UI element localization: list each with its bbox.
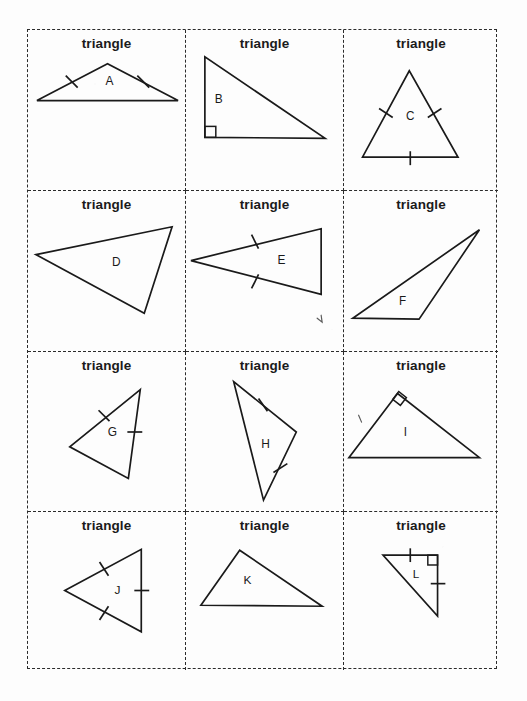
triangle-drawing-h: H bbox=[186, 352, 343, 511]
triangle-card-g[interactable]: triangleG bbox=[28, 352, 186, 512]
triangle-drawing-e: E bbox=[186, 191, 343, 351]
congruence-tick-mark bbox=[252, 235, 259, 249]
triangle-letter-label: G bbox=[108, 425, 117, 439]
triangle-card-d[interactable]: triangleD bbox=[28, 191, 186, 352]
triangle-drawing-f: F bbox=[344, 191, 498, 351]
triangle-letter-label: L bbox=[413, 567, 420, 580]
triangle-letter-label: H bbox=[261, 437, 270, 451]
triangle-letter-label: C bbox=[406, 109, 415, 123]
triangle-drawing-c: C bbox=[344, 30, 498, 190]
triangle-outline bbox=[191, 229, 321, 295]
triangle-letter-label: J bbox=[114, 583, 120, 597]
triangle-outline bbox=[349, 393, 480, 457]
triangle-card-e[interactable]: triangleE bbox=[186, 191, 344, 352]
congruence-tick-mark bbox=[379, 109, 393, 118]
triangle-outline bbox=[65, 549, 142, 631]
stray-pencil-mark bbox=[359, 415, 362, 422]
congruence-tick-mark bbox=[259, 398, 268, 411]
congruence-tick-mark bbox=[100, 562, 109, 576]
triangle-letter-label: I bbox=[404, 425, 407, 438]
worksheet-page: triangleAtriangleBtriangleCtriangleDtria… bbox=[0, 0, 527, 701]
stray-pencil-mark bbox=[317, 315, 322, 322]
triangle-outline bbox=[36, 227, 172, 313]
triangle-card-i[interactable]: triangleI bbox=[344, 352, 498, 512]
triangle-card-b[interactable]: triangleB bbox=[186, 30, 344, 191]
triangle-letter-label: K bbox=[244, 573, 252, 587]
triangle-card-grid: triangleAtriangleBtriangleCtriangleDtria… bbox=[27, 29, 497, 669]
congruence-tick-mark bbox=[66, 76, 78, 88]
triangle-outline bbox=[70, 390, 141, 479]
triangle-drawing-k: K bbox=[186, 512, 343, 670]
triangle-outline bbox=[205, 57, 325, 138]
triangle-letter-label: F bbox=[399, 294, 406, 308]
triangle-letter-label: E bbox=[277, 253, 285, 267]
triangle-drawing-g: G bbox=[28, 352, 185, 511]
triangle-outline bbox=[201, 550, 322, 606]
triangle-card-h[interactable]: triangleH bbox=[186, 352, 344, 512]
triangle-outline bbox=[353, 230, 480, 319]
congruence-tick-mark bbox=[137, 76, 149, 88]
triangle-drawing-a: A bbox=[28, 30, 185, 190]
right-angle-marker-icon bbox=[428, 555, 438, 565]
triangle-card-j[interactable]: triangleJ bbox=[28, 512, 186, 670]
right-angle-marker-icon bbox=[205, 126, 216, 137]
triangle-letter-label: D bbox=[112, 255, 121, 269]
triangle-drawing-l: L bbox=[344, 512, 498, 670]
triangle-drawing-b: B bbox=[186, 30, 343, 190]
triangle-card-f[interactable]: triangleF bbox=[344, 191, 498, 352]
triangle-letter-label: B bbox=[215, 92, 223, 106]
triangle-drawing-d: D bbox=[28, 191, 185, 351]
triangle-card-l[interactable]: triangleL bbox=[344, 512, 498, 670]
triangle-card-k[interactable]: triangleK bbox=[186, 512, 344, 670]
triangle-drawing-j: J bbox=[28, 512, 185, 670]
triangle-letter-label: A bbox=[106, 74, 114, 88]
triangle-card-a[interactable]: triangleA bbox=[28, 30, 186, 191]
triangle-card-c[interactable]: triangleC bbox=[344, 30, 498, 191]
triangle-drawing-i: I bbox=[344, 352, 498, 511]
